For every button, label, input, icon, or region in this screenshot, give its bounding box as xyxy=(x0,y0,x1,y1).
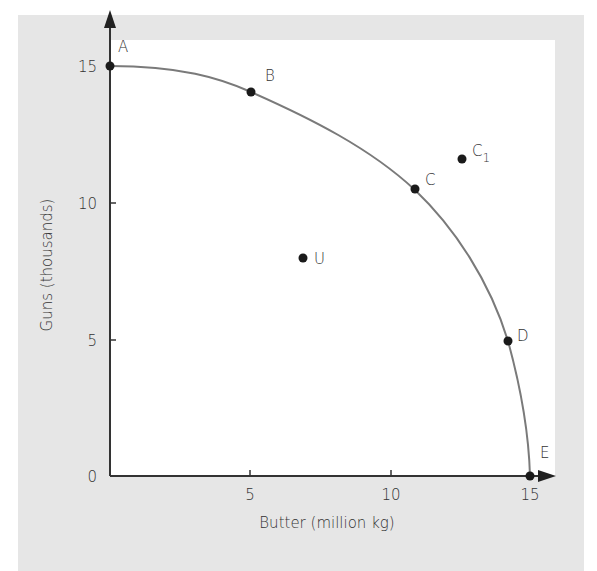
y-tick-label: 15 xyxy=(78,58,97,76)
point-a xyxy=(106,62,115,71)
x-tick-label: 5 xyxy=(245,486,255,504)
label-c: C xyxy=(425,171,435,189)
point-c xyxy=(411,185,420,194)
y-axis-label: Guns (thousands) xyxy=(38,199,56,332)
point-u xyxy=(299,254,308,263)
x-tick-label: 10 xyxy=(381,486,400,504)
y-axis-arrow-icon xyxy=(104,10,116,28)
label-u: U xyxy=(314,250,325,268)
point-e xyxy=(526,472,535,481)
label-d: D xyxy=(517,327,529,345)
label-b: B xyxy=(265,67,275,85)
y-tick-label: 10 xyxy=(78,195,97,213)
point-b xyxy=(247,88,256,97)
y-tick-label: 5 xyxy=(87,332,97,350)
point-d xyxy=(504,337,513,346)
label-e: E xyxy=(540,444,549,462)
point-c1 xyxy=(458,155,467,164)
x-axis-label: Butter (million kg) xyxy=(259,514,394,532)
chart-svg: 5 10 15 0 5 10 15 Butter (million kg) Gu… xyxy=(0,0,597,571)
y-tick-label: 0 xyxy=(87,468,97,486)
x-tick-label: 15 xyxy=(520,486,539,504)
label-a: A xyxy=(118,38,128,56)
plot-area xyxy=(110,40,555,476)
